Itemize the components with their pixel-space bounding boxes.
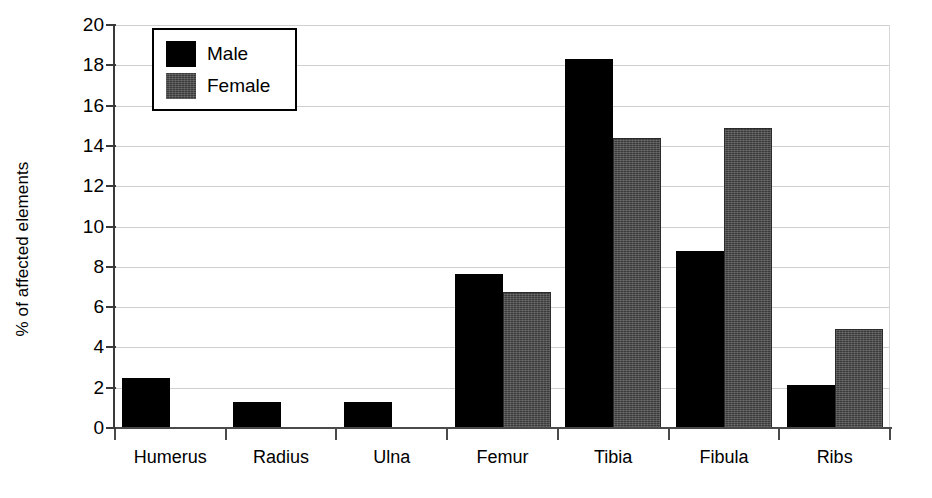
x-axis-tick [335, 429, 337, 440]
y-axis-tick [106, 105, 116, 107]
y-axis-tick-label: 18 [60, 55, 104, 74]
gridline [115, 267, 889, 268]
y-axis-tick-labels: 02468101214161820 [48, 0, 104, 498]
y-axis-tick-label: 10 [60, 217, 104, 236]
y-axis-title: % of affected elements [0, 0, 46, 498]
bar-ribs-male [787, 385, 835, 428]
y-axis-tick-label: 0 [60, 418, 104, 437]
y-axis-tick [106, 226, 116, 228]
y-axis-tick-label: 20 [60, 15, 104, 34]
bar-fibula-female [724, 128, 772, 428]
x-axis-tick-label-tibia: Tibia [558, 447, 669, 468]
y-axis-tick-label: 12 [60, 176, 104, 195]
y-axis-tick [106, 266, 116, 268]
y-axis-tick [106, 64, 116, 66]
bar-ulna-male [344, 402, 392, 428]
x-axis-tick [114, 429, 116, 440]
y-axis-tick [106, 24, 116, 26]
legend-swatch-female-icon [166, 73, 196, 99]
x-axis-tick-label-ulna: Ulna [336, 447, 447, 468]
legend-label-female: Female [207, 75, 270, 97]
x-axis-tick-label-radius: Radius [226, 447, 337, 468]
y-axis-tick-label: 4 [60, 337, 104, 356]
x-axis-tick-label-femur: Femur [447, 447, 558, 468]
y-axis-tick-label: 16 [60, 96, 104, 115]
y-axis-tick-label: 8 [60, 257, 104, 276]
legend-item-male: Male [166, 38, 295, 70]
gridline [115, 186, 889, 187]
x-axis-tick [889, 429, 891, 440]
x-axis-tick [557, 429, 559, 440]
bar-tibia-female [613, 138, 661, 428]
y-axis-tick-label: 14 [60, 136, 104, 155]
x-axis-tick [225, 429, 227, 440]
bar-tibia-male [565, 59, 613, 428]
chart-legend: Male Female [152, 28, 297, 111]
bar-radius-male [233, 402, 281, 428]
x-axis-tick [668, 429, 670, 440]
bar-ribs-female [835, 329, 883, 428]
x-axis-tick-label-humerus: Humerus [115, 447, 226, 468]
y-axis-tick-label: 2 [60, 378, 104, 397]
gridline [115, 25, 889, 26]
x-axis-line [113, 427, 892, 429]
bar-fibula-male [676, 251, 724, 428]
y-axis-tick-label: 6 [60, 297, 104, 316]
x-axis-tick [778, 429, 780, 440]
x-axis-tick [446, 429, 448, 440]
x-axis-tick-label-ribs: Ribs [779, 447, 890, 468]
legend-item-female: Female [166, 70, 295, 102]
y-axis-tick [106, 387, 116, 389]
y-axis-tick [106, 306, 116, 308]
x-axis-tick-label-fibula: Fibula [669, 447, 780, 468]
gridline [115, 227, 889, 228]
y-axis-tick [106, 185, 116, 187]
bar-humerus-male [122, 378, 170, 428]
gridline [115, 146, 889, 147]
legend-label-male: Male [207, 43, 248, 65]
bar-femur-female [503, 292, 551, 428]
legend-swatch-male-icon [166, 41, 196, 67]
y-axis-tick [106, 145, 116, 147]
y-axis-tick [106, 346, 116, 348]
bar-femur-male [455, 274, 503, 428]
bar-chart: % of affected elements 02468101214161820… [0, 0, 932, 498]
